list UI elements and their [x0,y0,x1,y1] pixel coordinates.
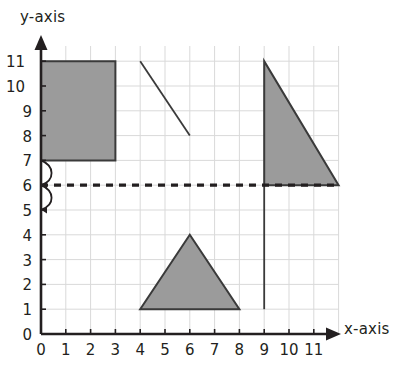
y-tick-label-9: 9 [10,103,32,121]
x-tick-label-7: 7 [205,341,225,359]
plot-canvas [0,0,398,379]
y-tick-label-3: 3 [10,252,32,270]
y-tick-label-4: 4 [10,227,32,245]
y-tick-label-8: 8 [10,128,32,146]
shape-right-triangle [264,61,338,185]
x-tick-label-3: 3 [105,341,125,359]
arc-marker-lower [41,185,52,209]
x-tick-label-6: 6 [180,341,200,359]
y-tick-label-1: 1 [10,301,32,319]
coordinate-grid-figure: y-axis x-axis 0 1 2 3 4 5 6 7 8 9 10 11 … [0,0,398,379]
y-tick-label-7: 7 [10,152,32,170]
y-axis-arrowhead [35,35,48,50]
y-tick-label-11: 11 [3,53,25,71]
x-tick-label-1: 1 [56,341,76,359]
x-tick-label-11: 11 [304,341,324,359]
y-axis-title: y-axis [20,8,65,26]
x-tick-label-8: 8 [229,341,249,359]
shape-rectangle [41,61,115,160]
y-tick-label-2: 2 [10,276,32,294]
x-axis-title: x-axis [344,320,390,338]
x-tick-label-0: 0 [31,341,51,359]
x-tick-label-9: 9 [254,341,274,359]
shape-isosceles-triangle [140,235,239,309]
x-tick-label-10: 10 [279,341,299,359]
x-tick-label-4: 4 [130,341,150,359]
arc-marker-upper [41,160,52,185]
y-tick-label-6: 6 [10,177,32,195]
y-tick-label-5: 5 [10,202,32,220]
x-tick-label-5: 5 [155,341,175,359]
x-tick-label-2: 2 [81,341,101,359]
y-tick-label-0: 0 [10,326,32,344]
y-tick-label-10: 10 [3,78,25,96]
